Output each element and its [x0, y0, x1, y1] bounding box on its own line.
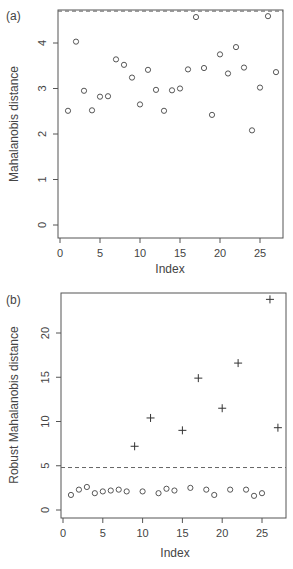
- x-tick-label: 10: [134, 247, 146, 259]
- plus-marker: [234, 359, 242, 367]
- circle-marker: [228, 487, 233, 492]
- plus-marker: [218, 404, 226, 412]
- circle-marker: [113, 57, 118, 62]
- circle-marker: [259, 491, 264, 496]
- y-axis-label-b: Robust Mahalanobis distance: [7, 326, 21, 484]
- circle-marker: [233, 44, 238, 49]
- x-tick-label: 10: [136, 527, 148, 539]
- circle-marker: [241, 65, 246, 70]
- y-tick-label: 5: [39, 463, 51, 469]
- plus-marker: [194, 374, 202, 382]
- circle-marker: [161, 108, 166, 113]
- circle-marker: [169, 88, 174, 93]
- y-axis-a: 01234: [36, 40, 58, 228]
- circle-marker: [97, 94, 102, 99]
- x-axis-b: 0510152025: [60, 518, 268, 539]
- plus-marker: [178, 426, 186, 434]
- x-tick-label: 0: [60, 527, 66, 539]
- circle-marker: [193, 14, 198, 19]
- circle-marker: [92, 491, 97, 496]
- circle-marker: [156, 491, 161, 496]
- circle-marker: [140, 489, 145, 494]
- circle-marker: [121, 62, 126, 67]
- circle-marker: [257, 85, 262, 90]
- circle-marker: [124, 489, 129, 494]
- plus-marker: [131, 442, 139, 450]
- circle-marker: [212, 492, 217, 497]
- x-tick-label: 0: [57, 247, 63, 259]
- circle-marker: [249, 128, 254, 133]
- y-tick-label: 10: [39, 415, 51, 427]
- plus-marker: [274, 424, 282, 432]
- panel-label-b: (b): [6, 293, 21, 307]
- y-tick-label: 4: [36, 40, 48, 46]
- y-axis-label-a: Mahalanobis distance: [7, 66, 21, 182]
- y-tick-label: 20: [39, 327, 51, 339]
- y-tick-label: 3: [36, 85, 48, 91]
- data-points-a: [65, 14, 278, 133]
- circle-marker: [116, 487, 121, 492]
- circle-marker: [73, 39, 78, 44]
- circle-marker: [81, 88, 86, 93]
- x-tick-label: 20: [214, 247, 226, 259]
- panel-a-scatter: (a) 01234 0510152025 Index Mahalanobis d…: [6, 9, 283, 276]
- circle-marker: [188, 485, 193, 490]
- circle-marker: [265, 14, 270, 19]
- x-tick-label: 20: [216, 527, 228, 539]
- plot-frame-b: [61, 293, 286, 518]
- circle-marker: [153, 87, 158, 92]
- circle-marker: [145, 67, 150, 72]
- plus-marker: [147, 414, 155, 422]
- circle-marker: [84, 484, 89, 489]
- plot-frame-a: [58, 10, 283, 238]
- x-axis-label-a: Index: [155, 262, 184, 276]
- circle-marker: [251, 493, 256, 498]
- circle-marker: [68, 492, 73, 497]
- x-tick-label: 25: [254, 247, 266, 259]
- circle-marker: [209, 112, 214, 117]
- circle-marker: [137, 102, 142, 107]
- circle-marker: [164, 486, 169, 491]
- x-tick-label: 15: [176, 527, 188, 539]
- circle-marker: [65, 108, 70, 113]
- chart-figure: (a) 01234 0510152025 Index Mahalanobis d…: [0, 0, 293, 569]
- circle-marker: [204, 487, 209, 492]
- y-axis-b: 05101520: [39, 327, 61, 513]
- x-tick-label: 15: [174, 247, 186, 259]
- x-axis-label-b: Index: [160, 546, 189, 560]
- circle-marker: [243, 487, 248, 492]
- y-tick-label: 0: [39, 507, 51, 513]
- circle-marker: [100, 489, 105, 494]
- x-tick-label: 5: [97, 247, 103, 259]
- plus-marker: [266, 295, 274, 303]
- circle-marker: [108, 488, 113, 493]
- circle-marker: [201, 65, 206, 70]
- x-tick-label: 5: [100, 527, 106, 539]
- circle-marker: [177, 86, 182, 91]
- y-tick-label: 2: [36, 131, 48, 137]
- panel-b-scatter: (b) 05101520 0510152025 Index Robust Mah…: [6, 293, 286, 560]
- circle-marker: [273, 70, 278, 75]
- x-axis-a: 0510152025: [57, 238, 266, 259]
- circle-marker: [129, 75, 134, 80]
- circle-marker: [172, 488, 177, 493]
- y-tick-label: 0: [36, 222, 48, 228]
- y-tick-label: 15: [39, 371, 51, 383]
- y-tick-label: 1: [36, 176, 48, 182]
- circle-marker: [217, 52, 222, 57]
- panel-label-a: (a): [6, 9, 21, 23]
- circle-marker: [105, 94, 110, 99]
- circle-marker: [225, 71, 230, 76]
- x-tick-label: 25: [256, 527, 268, 539]
- circle-marker: [76, 487, 81, 492]
- circle-marker: [89, 108, 94, 113]
- circle-marker: [185, 67, 190, 72]
